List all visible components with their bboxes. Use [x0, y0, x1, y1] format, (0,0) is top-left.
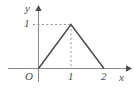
x-tick-label-2: 2 [101, 71, 107, 82]
plot-canvas [0, 0, 134, 88]
x-tick-label-1: 1 [68, 71, 74, 82]
origin-label: O [25, 71, 33, 82]
y-tick-label-1: 1 [24, 18, 30, 29]
figure-container: y x 1 O 1 2 [0, 0, 134, 88]
x-axis-label: x [119, 72, 124, 83]
y-axis-label: y [25, 3, 30, 14]
y-axis-arrowhead [35, 5, 41, 11]
x-axis-arrowhead [126, 65, 132, 71]
